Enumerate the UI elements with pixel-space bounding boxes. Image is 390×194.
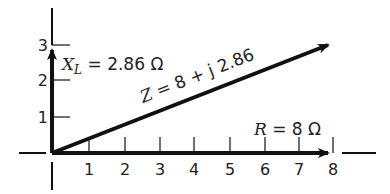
svg-text:3: 3 <box>38 36 48 55</box>
svg-text:1: 1 <box>38 108 48 127</box>
svg-text:8: 8 <box>328 160 338 179</box>
xl-label: XL = 2.86 Ω <box>60 54 163 77</box>
svg-text:4: 4 <box>189 160 199 179</box>
r-label: R = 8 Ω <box>253 119 321 139</box>
svg-text:6: 6 <box>260 160 270 179</box>
y-tick-labels: 1 2 3 <box>38 36 48 127</box>
svg-text:7: 7 <box>294 160 304 179</box>
svg-text:2: 2 <box>120 160 130 179</box>
svg-text:2: 2 <box>38 71 48 90</box>
x-tick-labels: 1 2 3 4 5 6 7 8 <box>84 160 338 179</box>
x-ticks <box>89 137 333 153</box>
svg-text:1: 1 <box>84 160 94 179</box>
svg-text:3: 3 <box>155 160 165 179</box>
svg-text:5: 5 <box>225 160 235 179</box>
phasor-diagram: 1 2 3 4 5 6 7 8 1 2 3 XL = 2.86 Ω Z = 8 … <box>0 0 390 194</box>
